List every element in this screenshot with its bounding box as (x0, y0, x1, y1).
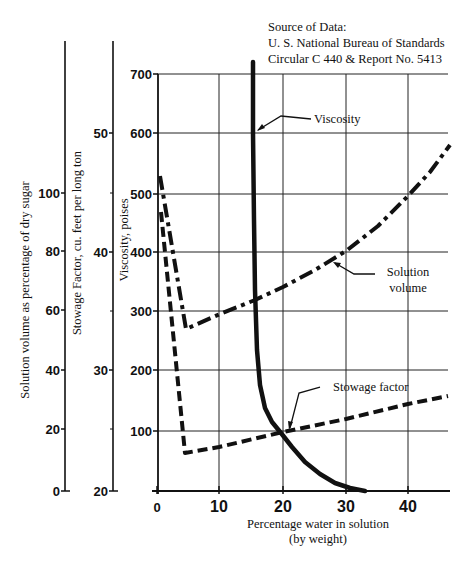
x-axis-title-line2: (by weight) (289, 532, 347, 546)
solution-volume-axis: 0 20 40 60 80 100 Solution volume as per… (18, 41, 70, 499)
viscosity-tick-600: 600 (130, 126, 152, 141)
solution-volume-curve (160, 145, 450, 329)
stowage-tick-30: 30 (94, 363, 108, 378)
x-tick-30: 30 (337, 498, 355, 515)
stowage-tick-20: 20 (94, 484, 108, 499)
solution-volume-annotation: Solution volume (333, 262, 430, 295)
solution-volume-label-2: volume (389, 281, 427, 295)
x-axis-title-line1: Percentage water in solution (247, 517, 390, 531)
solution-tick-60: 60 (46, 303, 60, 318)
viscosity-label: Viscosity (314, 112, 361, 126)
x-axis: 0 10 20 30 40 Percentage water in soluti… (153, 486, 417, 546)
x-tick-0: 0 (153, 500, 160, 515)
stowage-tick-50: 50 (94, 126, 108, 141)
stowage-tick-40: 40 (94, 245, 108, 260)
viscosity-tick-200: 200 (130, 363, 152, 378)
x-tick-10: 10 (210, 498, 228, 515)
viscosity-tick-500: 500 (130, 187, 152, 202)
solution-axis-title: Solution volume as percentage of dry sug… (18, 181, 32, 399)
x-tick-40: 40 (399, 498, 417, 515)
viscosity-tick-300: 300 (130, 304, 152, 319)
viscosity-axis-title: Viscosity, poises (117, 198, 131, 281)
solution-tick-40: 40 (46, 363, 60, 378)
solution-volume-label-1: Solution (387, 265, 430, 279)
viscosity-tick-400: 400 (130, 245, 152, 260)
chart-canvas: 0 20 40 60 80 100 Solution volume as per… (0, 0, 473, 563)
viscosity-tick-100: 100 (130, 424, 152, 439)
stowage-axis-title: Stowage Factor, cu. feet per long ton (70, 150, 84, 335)
solution-tick-0: 0 (53, 484, 60, 499)
solution-tick-20: 20 (46, 422, 60, 437)
solution-tick-100: 100 (38, 186, 60, 201)
solution-tick-80: 80 (46, 244, 60, 259)
x-tick-20: 20 (274, 498, 292, 515)
stowage-axis: 20 30 40 50 Stowage Factor, cu. feet per… (70, 41, 118, 499)
viscosity-tick-700: 700 (130, 67, 152, 82)
stowage-factor-label: Stowage factor (333, 380, 409, 394)
stowage-factor-curve (161, 212, 448, 453)
stowage-factor-annotation: Stowage factor (288, 380, 409, 430)
